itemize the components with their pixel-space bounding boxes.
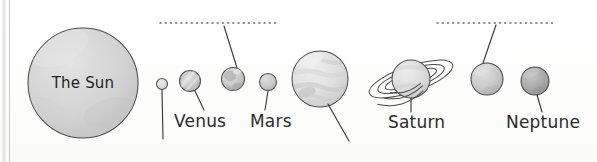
planet-earth: [222, 66, 245, 91]
solar-system-illustration: The Sun Venus: [0, 0, 597, 162]
planet-neptune: [521, 67, 549, 95]
planet-label-mars: Mars: [250, 111, 292, 131]
planet-label-venus: Venus: [174, 111, 226, 131]
planet-mercury: [157, 79, 168, 90]
planet-label-neptune: Neptune: [506, 112, 580, 132]
solar-system-diagram-page: The Sun Venus: [0, 0, 597, 162]
planet-label-saturn: Saturn: [388, 112, 445, 132]
sun-label: The Sun: [51, 74, 115, 92]
planet-mars: [260, 74, 277, 91]
planet-venus: [180, 70, 202, 92]
